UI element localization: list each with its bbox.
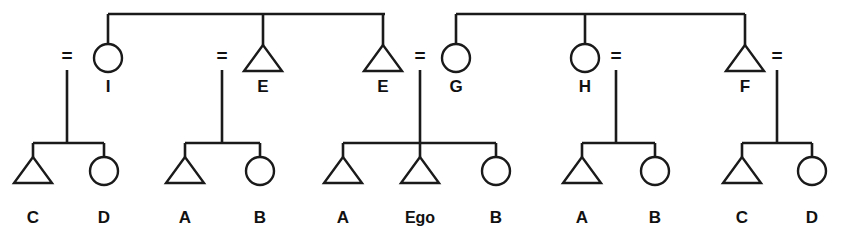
union-equals-p3: = <box>414 45 425 66</box>
person-label-c3: A <box>179 208 191 227</box>
person-symbol-c-c1[interactable] <box>14 157 52 183</box>
person-label-c1: C <box>27 208 39 227</box>
union-equals-p1: = <box>61 45 72 66</box>
person-label-c10: C <box>736 208 748 227</box>
top-sibling-bars-group <box>108 14 745 45</box>
child-generation-group: CDABAEgoBABCD <box>14 157 826 227</box>
person-label-c8: A <box>576 208 588 227</box>
person-symbol-f-p6[interactable] <box>726 45 764 71</box>
kinship-diagram: IEEGHF CDABAEgoBABCD ===== <box>0 0 846 245</box>
person-label-c2: D <box>98 208 110 227</box>
person-symbol-b-c4[interactable] <box>246 157 274 185</box>
person-symbol-d-c2[interactable] <box>90 157 118 185</box>
person-label-p4: G <box>449 77 462 96</box>
person-symbol-e-p2[interactable] <box>244 45 282 71</box>
union-equals-p5: = <box>610 45 621 66</box>
person-label-c9: B <box>649 208 661 227</box>
person-label-c7: B <box>490 208 502 227</box>
person-label-c11: D <box>806 208 818 227</box>
person-label-p5: H <box>579 77 591 96</box>
person-label-p3: E <box>377 77 388 96</box>
descent-lines-group <box>67 70 777 143</box>
person-symbol-ego-c6[interactable] <box>401 157 439 183</box>
person-label-c4: B <box>254 208 266 227</box>
person-symbol-h-p5[interactable] <box>571 44 599 72</box>
parent-generation-group: IEEGHF <box>94 44 764 96</box>
union-equals-p6: = <box>771 45 782 66</box>
person-symbol-i-p1[interactable] <box>94 44 122 72</box>
person-symbol-b-c9[interactable] <box>641 157 669 185</box>
marriage-union-marks-group: ===== <box>61 45 782 66</box>
person-symbol-b-c7[interactable] <box>482 157 510 185</box>
person-symbol-g-p4[interactable] <box>442 44 470 72</box>
person-symbol-a-c8[interactable] <box>563 157 601 183</box>
person-symbol-d-c11[interactable] <box>798 157 826 185</box>
person-label-p1: I <box>106 77 111 96</box>
person-label-p6: F <box>740 77 750 96</box>
person-label-p2: E <box>257 77 268 96</box>
person-symbol-e-p3[interactable] <box>364 45 402 71</box>
person-symbol-a-c3[interactable] <box>166 157 204 183</box>
person-symbol-a-c5[interactable] <box>324 157 362 183</box>
person-symbol-c-c10[interactable] <box>723 157 761 183</box>
kinship-diagram-canvas: IEEGHF CDABAEgoBABCD ===== <box>0 0 846 245</box>
person-label-c5: A <box>337 208 349 227</box>
person-label-c6: Ego <box>405 209 435 226</box>
family-sibling-bars-group <box>33 143 812 157</box>
union-equals-p2: = <box>216 45 227 66</box>
